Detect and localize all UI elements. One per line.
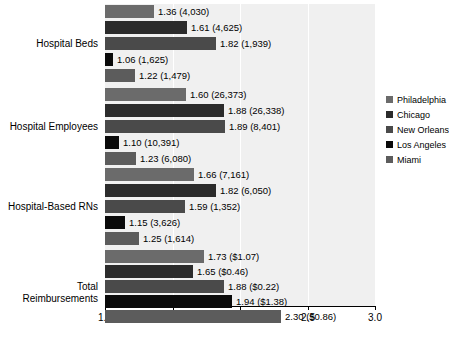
bar-0-2 [105, 37, 216, 50]
bar-3-1 [105, 265, 193, 278]
legend-item-philadelphia[interactable]: Philadelphia [386, 92, 447, 107]
bar-value-label-0-3: 1.06 (1,625) [114, 53, 168, 66]
legend-item-label: Philadelphia [397, 95, 446, 105]
category-label-2: Hospital-Based RNs [2, 201, 98, 213]
x-tick-mark-4 [375, 306, 376, 310]
bar-value-label-2-3: 1.15 (3,626) [126, 216, 180, 229]
bar-value-label-2-0: 1.66 (7,161) [195, 168, 249, 181]
bar-1-3 [105, 136, 119, 149]
legend-item-miami[interactable]: Miami [386, 152, 447, 167]
legend-item-los-angeles[interactable]: Los Angeles [386, 137, 447, 152]
bar-1-0 [105, 88, 186, 101]
bar-value-label-0-4: 1.22 (1,479) [136, 69, 190, 82]
bar-value-label-1-2: 1.89 (8,401) [226, 120, 280, 133]
legend-item-new-orleans[interactable]: New Orleans [386, 122, 447, 137]
bar-value-label-3-1: 1.65 ($0.46) [194, 265, 248, 278]
bar-value-label-1-4: 1.23 (6,080) [137, 152, 191, 165]
bar-2-1 [105, 184, 216, 197]
bar-0-0 [105, 5, 154, 18]
bar-2-4 [105, 232, 139, 245]
bar-3-3 [105, 295, 232, 308]
bar-1-1 [105, 104, 224, 117]
bar-3-4 [105, 310, 281, 323]
bar-0-3 [105, 53, 113, 66]
legend-item-label: Chicago [397, 110, 430, 120]
bar-value-label-2-4: 1.25 (1,614) [140, 232, 194, 245]
gridline-2.5 [308, 4, 309, 306]
bar-3-0 [105, 250, 204, 263]
bar-value-label-2-2: 1.59 (1,352) [186, 200, 240, 213]
bar-2-0 [105, 168, 194, 181]
bar-value-label-3-4: 2.30 ($0.86) [282, 310, 336, 323]
x-tick-label-4: 3.0 [360, 312, 390, 323]
bar-value-label-0-0: 1.36 (4,030) [155, 5, 209, 18]
category-label-1: Hospital Employees [2, 121, 98, 133]
bar-1-2 [105, 120, 225, 133]
bar-value-label-0-1: 1.61 (4,625) [188, 21, 242, 34]
legend-item-label: Los Angeles [397, 140, 446, 150]
bar-2-3 [105, 216, 125, 229]
bar-0-4 [105, 69, 135, 82]
category-label-0: Hospital Beds [2, 38, 98, 50]
bar-0-1 [105, 21, 187, 34]
legend-swatch-icon [386, 126, 393, 133]
bar-value-label-1-1: 1.88 (26,338) [225, 104, 285, 117]
category-label-3: Total Reimbursements [2, 281, 98, 305]
legend-item-label: New Orleans [397, 125, 449, 135]
bar-value-label-1-0: 1.60 (26,373) [187, 88, 247, 101]
legend-swatch-icon [386, 141, 393, 148]
legend-swatch-icon [386, 156, 393, 163]
bar-value-label-1-3: 1.10 (10,391) [120, 136, 180, 149]
bar-value-label-3-3: 1.94 ($1.38) [233, 295, 287, 308]
bar-value-label-0-2: 1.82 (1,939) [217, 37, 271, 50]
bar-3-2 [105, 280, 224, 293]
bar-2-2 [105, 200, 185, 213]
legend: PhiladelphiaChicagoNew OrleansLos Angele… [386, 92, 447, 167]
legend-swatch-icon [386, 111, 393, 118]
legend-item-label: Miami [397, 155, 421, 165]
bar-value-label-2-1: 1.82 (6,050) [217, 184, 271, 197]
bar-value-label-3-0: 1.73 ($1.07) [205, 250, 259, 263]
legend-swatch-icon [386, 96, 393, 103]
legend-item-chicago[interactable]: Chicago [386, 107, 447, 122]
bar-value-label-3-2: 1.88 ($0.22) [225, 280, 279, 293]
bar-1-4 [105, 152, 136, 165]
